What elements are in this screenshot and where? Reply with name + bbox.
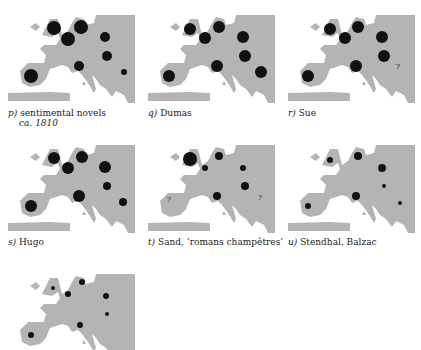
europe-map: [0, 258, 140, 350]
data-dot: [211, 60, 223, 72]
data-dot: [213, 21, 225, 33]
data-dot: [76, 151, 88, 163]
data-dot: [100, 32, 110, 42]
map-panel: [0, 258, 140, 350]
data-dot: [103, 293, 109, 299]
map-panel: [0, 5, 140, 107]
panel-caption: r) Sue: [288, 108, 316, 118]
europe-map: ??: [140, 135, 280, 237]
data-dot: [79, 279, 85, 285]
data-dot: [382, 184, 386, 188]
data-dot: [121, 69, 127, 75]
data-dot: [239, 50, 251, 62]
europe-map: ?: [280, 5, 420, 107]
data-dot: [103, 182, 111, 190]
data-dot: [199, 32, 211, 44]
data-dot: [99, 161, 111, 173]
map-panel: ??: [140, 135, 280, 237]
data-dot: [105, 312, 109, 316]
data-dot: [48, 152, 60, 164]
data-dot: [339, 32, 351, 44]
data-dot: [102, 51, 112, 61]
europe-map: [0, 135, 140, 237]
data-dot: [73, 190, 85, 202]
map-panel: ?: [280, 5, 420, 107]
data-dot: [215, 152, 223, 160]
panel-caption: t) Sand, ‘romans champêtres’: [148, 237, 283, 247]
data-dot: [237, 31, 249, 43]
data-dot: [77, 322, 83, 328]
map-panel: [140, 5, 280, 107]
data-dot: [302, 70, 314, 82]
data-dot: [376, 31, 388, 43]
map-panel: [280, 135, 420, 237]
europe-map: [140, 5, 280, 107]
data-dot: [378, 164, 386, 172]
data-dot: [202, 165, 208, 171]
unknown-marker: ?: [167, 195, 171, 204]
data-dot: [47, 21, 61, 35]
europe-map: [280, 135, 420, 237]
data-dot: [51, 286, 55, 290]
data-dot: [324, 23, 336, 35]
panel-caption: s) Hugo: [8, 237, 44, 247]
unknown-marker: ?: [258, 193, 262, 202]
data-dot: [352, 192, 360, 200]
data-dot: [65, 291, 71, 297]
data-dot: [28, 332, 34, 338]
data-dot: [184, 23, 196, 35]
data-dot: [74, 20, 88, 34]
data-dot: [378, 50, 390, 62]
data-dot: [183, 152, 197, 166]
data-dot: [24, 69, 38, 83]
data-dot: [62, 162, 74, 174]
data-dot: [398, 201, 402, 205]
data-dot: [163, 70, 175, 82]
data-dot: [350, 60, 362, 72]
data-dot: [25, 200, 37, 212]
data-dot: [61, 32, 75, 46]
data-dot: [305, 203, 311, 209]
data-dot: [74, 61, 84, 71]
unknown-marker: ?: [396, 62, 400, 71]
panel-caption: q) Dumas: [148, 108, 192, 118]
panel-caption: p) sentimental novelsca. 1810: [8, 108, 106, 128]
panel-caption: u) Stendhal, Balzac: [288, 237, 377, 247]
data-dot: [354, 152, 362, 160]
data-dot: [213, 192, 221, 200]
data-dot: [327, 157, 333, 163]
data-dot: [352, 21, 364, 33]
data-dot: [241, 182, 249, 190]
map-panel: [0, 135, 140, 237]
data-dot: [255, 66, 267, 78]
europe-map: [0, 5, 140, 107]
data-dot: [240, 165, 246, 171]
data-dot: [119, 198, 127, 206]
